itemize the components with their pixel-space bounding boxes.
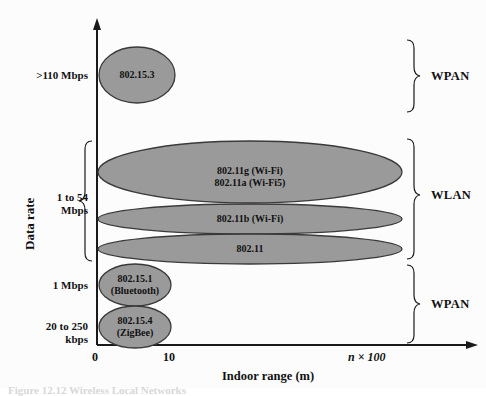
group-label-wlan: WLAN [431, 188, 471, 203]
ellipse-label-802-15-4: 802.15.4 (ZigBee) [95, 315, 175, 338]
right-brace-wpan-bottom [407, 265, 420, 343]
ellipse-label-bluetooth: (Bluetooth) [111, 285, 159, 296]
group-label-wpan-top: WPAN [431, 69, 469, 84]
figure-caption: Figure 12.12 Wireless Local Networks [8, 384, 186, 396]
ellipse-label-802-11a: 802.11a (Wi-Fi5) [215, 177, 286, 188]
rate-label-20to250kbps-line2: kbps [65, 333, 88, 345]
ellipse-label-802-11: 802.11 [150, 243, 350, 255]
ellipse-label-802-11b: 802.11b (Wi-Fi) [150, 213, 350, 225]
rate-label-110mbps: >110 Mbps [26, 69, 88, 82]
rate-label-20to250kbps: 20 to 250 kbps [10, 320, 88, 345]
ellipse-label-802-15-3: 802.15.3 [97, 69, 177, 81]
ellipse-label-802-11g: 802.11g (Wi-Fi) [217, 165, 283, 176]
ellipse-label-802-15-1: 802.15.1 (Bluetooth) [95, 273, 175, 296]
ellipse-label-802-11g-a: 802.11g (Wi-Fi) 802.11a (Wi-Fi5) [150, 165, 350, 188]
x-axis-title: Indoor range (m) [222, 369, 314, 384]
x-tick-n-times-100: n × 100 [348, 350, 386, 365]
rate-label-1to54mbps-line1: 1 to 54 [57, 191, 88, 203]
ellipse-label-zigbee: (ZigBee) [117, 327, 154, 338]
rate-label-1to54mbps: 1 to 54 Mbps [26, 191, 88, 216]
rate-label-20to250kbps-line1: 20 to 250 [46, 320, 88, 332]
ellipse-label-802-15-4-line1: 802.15.4 [118, 315, 153, 326]
right-brace-wlan [407, 139, 420, 259]
right-brace-wpan-top [407, 40, 420, 112]
x-tick-0: 0 [92, 350, 98, 365]
x-tick-10: 10 [163, 350, 175, 365]
ellipse-label-802-15-1-line1: 802.15.1 [118, 273, 153, 284]
rate-label-1to54mbps-line2: Mbps [61, 204, 88, 216]
rate-label-1mbps: 1 Mbps [26, 279, 88, 292]
group-label-wpan-bottom: WPAN [431, 297, 469, 312]
